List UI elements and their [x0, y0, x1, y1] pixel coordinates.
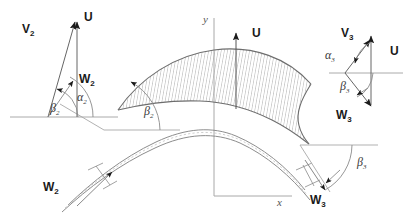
label-v3: V3 — [341, 26, 353, 42]
label-w2-inlet: W2 — [79, 72, 95, 88]
label-u-outlet: U — [390, 44, 399, 58]
label-beta2-cascade: β2 — [144, 104, 153, 120]
label-beta3-cascade: β3 — [357, 155, 366, 171]
velocity-triangle-diagram: V2 U W2 α2 β2 V3 U W3 α3 β3 y x U β2 β3 … — [0, 0, 416, 222]
w2-cascade-arrow — [77, 172, 112, 206]
diagram-canvas — [0, 0, 416, 222]
label-u-inlet: U — [84, 10, 93, 24]
lower-blade-core-line — [65, 132, 307, 208]
cascade-outlet-flow-marker — [296, 160, 325, 190]
label-u-cascade: U — [252, 26, 261, 40]
lower-blade-upper-line — [68, 130, 305, 205]
w2-pitch-tick-upper — [88, 163, 103, 170]
w3-pitch-span — [303, 165, 314, 186]
label-alpha3: α3 — [325, 48, 335, 64]
beta3-arc-tip — [326, 170, 340, 183]
label-w3-cascade: W3 — [310, 193, 326, 209]
label-w2-cascade: W2 — [43, 180, 59, 196]
label-v2: V2 — [22, 22, 34, 38]
lower-blade-lower-line — [62, 136, 310, 212]
alpha3-arc — [355, 42, 371, 63]
label-beta3-outlet: β3 — [340, 79, 349, 95]
beta3-arc — [325, 145, 352, 190]
label-y-axis: y — [203, 13, 208, 25]
label-x-axis: x — [277, 196, 282, 208]
label-beta2-inlet: β2 — [50, 101, 59, 117]
label-alpha2: α2 — [77, 90, 87, 106]
label-w3-outlet: W3 — [336, 108, 352, 124]
